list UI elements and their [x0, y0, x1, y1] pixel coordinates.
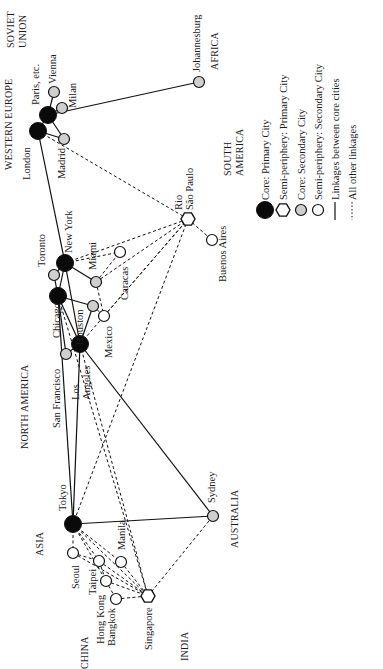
node-caracas — [115, 247, 126, 258]
node-seoul — [68, 548, 79, 559]
region-label-australia: AUSTRALIA — [229, 489, 240, 548]
city-label-taipei: Taipei — [87, 569, 98, 595]
node-toronto — [49, 270, 60, 281]
city-label-los-angeles: Los — [70, 384, 81, 400]
city-label-madrid: Madrid — [56, 147, 67, 179]
legend-label-0: Core: Primary City — [260, 119, 271, 200]
node-milan — [57, 103, 68, 114]
city-label-vienna: Vienna — [47, 54, 58, 84]
city-label-johannesburg: Johannesburg — [191, 14, 202, 72]
region-label-western-europe: WESTERN EUROPE — [3, 79, 14, 170]
node-new-york — [57, 255, 74, 272]
legend-label-1: Semi-periphery: Primary City — [278, 74, 289, 200]
node-hong-kong — [101, 576, 112, 587]
city-label-mexico: Mexico — [103, 326, 114, 358]
region-label-africa: AFRICA — [209, 32, 220, 70]
node-buenos-aires — [207, 235, 218, 246]
legend-label-3: Semi-periphery: Secondary City — [313, 63, 324, 200]
legend-semi-primary-icon — [276, 204, 290, 216]
node-tokyo — [65, 516, 82, 533]
region-label-south-america-1: SOUTH — [222, 142, 233, 176]
city-label-los-angeles-2: Angeles — [81, 366, 92, 400]
legend-core-secondary-icon — [296, 205, 307, 216]
node-london — [30, 123, 47, 140]
region-label-india: INDIA — [179, 631, 190, 661]
node-chicago — [50, 288, 67, 305]
node-johannesburg — [194, 77, 205, 88]
city-label-houston: Houston — [74, 309, 85, 345]
node-singapore — [141, 590, 155, 602]
node-san-francisco — [61, 349, 72, 360]
legend-core-primary-icon — [257, 202, 274, 219]
city-label-miami: Miami — [87, 242, 98, 270]
region-label-asia: ASIA — [34, 531, 45, 556]
node-madrid — [59, 134, 70, 145]
core-linkage-los-angeles-sydney — [80, 344, 213, 516]
legend-label-2: Core: Secondary City — [296, 108, 307, 200]
region-label-china: CHINA — [79, 636, 90, 669]
city-label-sydney: Sydney — [206, 471, 217, 503]
city-label-milan: Milan — [67, 82, 78, 108]
city-label-bangkok: Bangkok — [106, 607, 117, 646]
city-label-paris: Paris, etc. — [30, 64, 41, 105]
region-label-north-america: NORTH AMERICA — [19, 364, 30, 449]
node-vienna — [49, 87, 60, 98]
city-label-manila: Manila — [116, 520, 127, 550]
linkage-singapore-sydney — [148, 516, 213, 596]
city-label-london: London — [21, 147, 32, 180]
city-label-chicago: Chicago — [51, 303, 62, 338]
city-label-san-francisco: San Francisco — [51, 369, 62, 428]
node-taipei — [94, 556, 105, 567]
city-label-tokyo: Tokyo — [57, 484, 68, 511]
node-mexico — [99, 311, 110, 322]
city-label-buenos-aires: Buenos Aires — [217, 226, 228, 282]
region-labels: SOVIETUNIONWESTERN EUROPEAFRICASOUTHAMER… — [3, 11, 245, 669]
node-miami — [91, 277, 102, 288]
node-paris — [40, 107, 57, 124]
node-houston — [88, 301, 99, 312]
node-manila — [116, 557, 127, 568]
legend-label-4: Linkages between core cities — [330, 78, 341, 200]
region-label-soviet-union-1: SOVIET — [5, 11, 16, 48]
city-label-rio-sao-paulo-2: São Paulo — [184, 168, 195, 210]
legend: Core: Primary CitySemi-periphery: Primar… — [257, 63, 359, 220]
city-label-toronto: Toronto — [36, 234, 47, 267]
city-label-caracas: Caracas — [119, 267, 130, 300]
node-sydney — [208, 511, 219, 522]
region-label-south-america-2: AMERICA — [234, 128, 245, 176]
node-bangkok — [111, 594, 122, 605]
city-label-rio-sao-paulo: Rio — [173, 195, 184, 210]
world-city-network-diagram: LondonParis, etc.ViennaMilanMadridJohann… — [0, 0, 383, 669]
node-rio-sao-paulo — [181, 213, 195, 225]
core-linkage-tokyo-sydney — [73, 516, 213, 524]
region-label-soviet-union-2: UNION — [17, 15, 28, 48]
linkage-mexico-rio-sao-paulo — [104, 219, 188, 316]
city-label-hong-kong: Hong Kong — [95, 594, 106, 644]
city-label-new-york: New York — [63, 210, 74, 253]
city-label-singapore: Singapore — [143, 607, 154, 650]
core-linkage-los-angeles-tokyo — [73, 344, 80, 524]
legend-label-5: All other linkages — [347, 125, 358, 200]
city-label-seoul: Seoul — [70, 565, 81, 589]
legend-semi-secondary-icon — [313, 205, 324, 216]
